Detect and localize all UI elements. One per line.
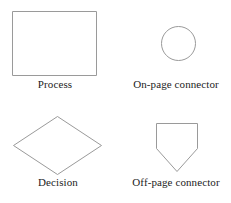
shape-label-decision: Decision xyxy=(3,176,113,189)
shape-on-page-connector xyxy=(161,26,196,61)
circle-shape xyxy=(161,26,196,61)
diamond-shape xyxy=(13,116,102,175)
pentagon-shape xyxy=(156,123,198,172)
flowchart-symbols-diagram: Process On-page connector Decision Off-p… xyxy=(0,0,231,203)
shape-off-page-connector xyxy=(156,123,198,172)
shape-label-on-page-connector: On-page connector xyxy=(121,78,231,91)
shape-label-off-page-connector: Off-page connector xyxy=(121,176,231,189)
shape-label-process: Process xyxy=(0,78,110,91)
shape-process xyxy=(12,11,97,76)
shape-decision xyxy=(13,116,102,175)
rectangle-shape xyxy=(12,11,97,76)
